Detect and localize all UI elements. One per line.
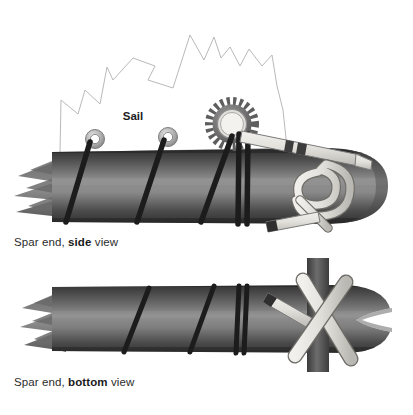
caption-side-suffix: view	[92, 236, 119, 248]
caption-bottom-prefix: Spar end,	[14, 376, 68, 388]
spar-lashing-illustration: Sail	[0, 0, 413, 415]
sail-label: Sail	[123, 110, 143, 122]
caption-bottom-suffix: view	[108, 376, 135, 388]
caption-side-emphasis: side	[68, 236, 91, 248]
caption-bottom-view: Spar end, bottom view	[14, 376, 134, 388]
caption-side-view: Spar end, side view	[14, 236, 118, 248]
strap-tip	[266, 220, 278, 232]
cord-wrap	[238, 134, 239, 224]
cord-wrap	[244, 286, 247, 353]
figure-root: Sail	[0, 0, 413, 415]
cord-wrap	[247, 134, 248, 224]
caption-side-prefix: Spar end,	[14, 236, 68, 248]
spar-bottom-view	[20, 258, 413, 372]
caption-bottom-emphasis: bottom	[68, 376, 108, 388]
cord-wrap	[236, 286, 239, 353]
